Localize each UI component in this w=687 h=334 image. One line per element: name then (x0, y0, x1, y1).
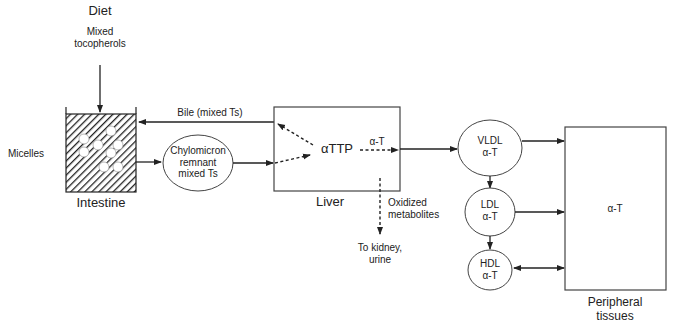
oxidized-line1: Oxidized (388, 197, 458, 209)
micelles-label: Micelles (8, 148, 62, 160)
intestine-box (66, 114, 136, 192)
chylomicron-line3: mixed Ts (163, 168, 233, 180)
peripheral-line2: tissues (570, 310, 660, 324)
kidney-label: To kidney, urine (345, 242, 415, 265)
vldl-line1: VLDL (465, 135, 515, 147)
peripheral-tissues-label: Peripheral tissues (570, 296, 660, 324)
kidney-line2: urine (345, 254, 415, 266)
peripheral-alpha-t-label: α-T (595, 203, 635, 215)
liver-label: Liver (300, 195, 360, 210)
vldl-label: VLDL α-T (465, 135, 515, 158)
ldl-line1: LDL (465, 199, 515, 211)
diet-subtitle-line1: Mixed (60, 26, 140, 38)
peripheral-line1: Peripheral (570, 296, 660, 310)
hdl-label: HDL α-T (465, 258, 515, 281)
chylomicron-line2: remnant (163, 157, 233, 169)
kidney-line1: To kidney, (345, 242, 415, 254)
vldl-line2: α-T (465, 147, 515, 159)
diet-title: Diet (70, 4, 130, 19)
tocopherol-metabolism-diagram: Diet Mixed tocopherols Micelles Intestin… (0, 0, 687, 334)
diet-subtitle: Mixed tocopherols (60, 26, 140, 49)
oxidized-metabolites-label: Oxidized metabolites (388, 197, 458, 220)
attp-to-bile-dashed-arrow (278, 124, 313, 145)
ldl-line2: α-T (465, 211, 515, 223)
oxidized-line2: metabolites (388, 209, 458, 221)
chylomicron-line1: Chylomicron (163, 145, 233, 157)
hdl-line2: α-T (465, 270, 515, 282)
chylomicron-label: Chylomicron remnant mixed Ts (163, 145, 233, 180)
hdl-line1: HDL (465, 258, 515, 270)
ldl-label: LDL α-T (465, 199, 515, 222)
alpha-t-edge-label: α-T (362, 136, 392, 148)
bile-label: Bile (mixed Ts) (160, 107, 260, 119)
attp-label: αTTP (312, 142, 362, 157)
diet-subtitle-line2: tocopherols (60, 38, 140, 50)
intestine-label: Intestine (56, 196, 146, 211)
diagram-graphics (0, 0, 687, 334)
uptake-to-attp-dashed-arrow (275, 155, 310, 163)
